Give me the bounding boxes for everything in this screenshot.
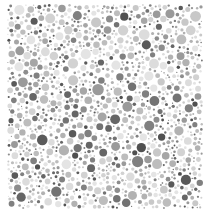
plate-dot: [155, 124, 158, 127]
plate-dot: [171, 140, 174, 143]
plate-dot: [176, 146, 178, 148]
plate-dot: [169, 148, 171, 150]
plate-dot: [135, 43, 137, 45]
plate-dot: [75, 50, 78, 53]
plate-dot: [168, 120, 169, 121]
plate-dot: [88, 182, 91, 185]
plate-dot: [129, 22, 131, 24]
plate-dot: [174, 157, 177, 160]
plate-dot: [111, 81, 114, 84]
plate-dot: [71, 52, 76, 57]
plate-dot: [98, 142, 101, 145]
plate-dot: [116, 207, 118, 209]
plate-dot: [98, 113, 107, 122]
plate-dot: [148, 138, 149, 139]
plate-dot: [36, 113, 39, 116]
plate-dot: [61, 65, 63, 67]
plate-dot: [113, 136, 117, 140]
plate-dot: [181, 19, 188, 26]
plate-dot: [51, 93, 54, 96]
plate-dot: [130, 11, 133, 14]
plate-dot: [35, 164, 40, 169]
plate-dot: [39, 180, 42, 183]
plate-dot: [156, 50, 158, 52]
plate-dot: [15, 24, 21, 30]
plate-dot: [7, 34, 8, 35]
plate-dot: [119, 159, 120, 160]
plate-dot: [93, 114, 95, 116]
plate-dot: [127, 183, 133, 189]
plate-dot: [71, 119, 74, 122]
plate-dot: [116, 127, 120, 131]
plate-dot: [31, 31, 33, 33]
plate-dot: [20, 98, 25, 103]
plate-dot: [135, 64, 136, 65]
plate-dot: [158, 133, 165, 140]
plate-dot: [17, 108, 20, 111]
plate-dot: [189, 173, 191, 175]
plate-dot: [190, 118, 193, 121]
plate-dot: [92, 150, 94, 152]
plate-dot: [199, 5, 202, 8]
plate-dot: [34, 27, 36, 29]
plate-dot: [54, 4, 58, 8]
plate-dot: [183, 163, 187, 167]
plate-dot: [122, 167, 125, 170]
plate-dot: [20, 172, 24, 176]
plate-dot: [163, 198, 171, 206]
plate-dot: [37, 79, 40, 82]
plate-dot: [112, 175, 117, 180]
plate-dot: [176, 72, 177, 73]
plate-dot: [107, 84, 109, 86]
plate-dot: [92, 5, 95, 8]
plate-dot: [161, 86, 166, 91]
plate-dot: [135, 58, 138, 61]
plate-dot: [196, 157, 201, 162]
plate-dot: [133, 5, 139, 11]
plate-dot: [137, 185, 140, 188]
plate-dot: [199, 138, 201, 140]
plate-dot: [81, 96, 83, 98]
plate-dot: [22, 59, 25, 62]
plate-dot: [56, 14, 58, 16]
plate-dot: [74, 164, 77, 167]
plate-dot: [122, 64, 124, 66]
plate-dot: [94, 111, 96, 113]
plate-dot: [192, 122, 197, 127]
plate-dot: [7, 19, 9, 21]
plate-dot: [130, 42, 133, 45]
plate-dot: [155, 189, 157, 191]
plate-dot: [79, 112, 81, 114]
plate-dot: [50, 117, 53, 120]
plate-dot: [37, 191, 40, 194]
plate-dot: [92, 94, 95, 97]
plate-dot: [19, 145, 23, 149]
plate-dot: [200, 128, 203, 131]
plate-dot: [177, 20, 180, 23]
plate-dot: [107, 206, 109, 208]
plate-dot: [142, 90, 149, 97]
plate-dot: [87, 16, 89, 18]
plate-dot: [195, 129, 199, 133]
plate-dot: [18, 204, 21, 207]
plate-dot: [34, 73, 40, 79]
plate-dot: [39, 88, 41, 90]
plate-dot: [80, 99, 82, 101]
plate-dot: [179, 205, 181, 207]
plate-dot: [26, 187, 29, 190]
plate-dot: [27, 195, 32, 200]
plate-dot: [11, 67, 12, 68]
plate-dot: [174, 204, 177, 207]
plate-dot: [102, 8, 103, 9]
plate-dot: [76, 162, 79, 165]
plate-dot: [109, 201, 111, 203]
plate-dot: [199, 81, 201, 83]
plate-dot: [9, 186, 13, 190]
plate-dot: [161, 119, 164, 122]
plate-dot: [102, 169, 105, 172]
plate-dot: [74, 193, 75, 194]
plate-dot: [88, 19, 90, 21]
plate-dot: [92, 175, 94, 177]
plate-dot: [98, 164, 99, 165]
plate-dot: [113, 186, 115, 188]
